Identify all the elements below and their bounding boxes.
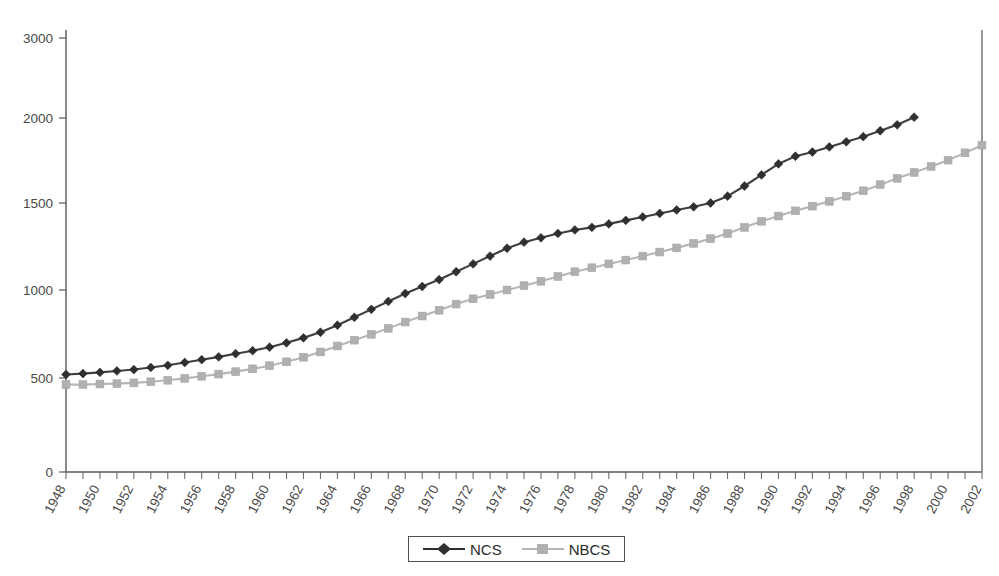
data-point-nbcs-1952 xyxy=(130,379,138,387)
x-tick-label-1960: 1960 xyxy=(245,482,272,516)
x-tick-label-1978: 1978 xyxy=(550,482,577,516)
series-line-nbcs xyxy=(66,145,982,384)
x-tick-label-1986: 1986 xyxy=(686,482,713,516)
data-point-ncs-1977 xyxy=(554,229,563,238)
data-point-nbcs-1961 xyxy=(283,358,291,366)
y-tick-label-2000: 2000 xyxy=(23,111,53,126)
line-chart-plot: 05001000150020003000 1948195019521954195… xyxy=(0,0,999,576)
data-point-nbcs-1949 xyxy=(79,381,87,389)
data-point-nbcs-1985 xyxy=(690,239,698,247)
data-point-ncs-1973 xyxy=(486,252,495,261)
data-point-nbcs-2002 xyxy=(978,141,986,149)
data-point-nbcs-1950 xyxy=(96,380,104,388)
data-point-nbcs-1988 xyxy=(741,223,749,231)
data-point-ncs-1979 xyxy=(587,223,596,232)
data-point-nbcs-1966 xyxy=(367,330,375,338)
data-point-ncs-1953 xyxy=(146,363,155,372)
data-point-ncs-1993 xyxy=(825,143,834,152)
x-tick-label-1998: 1998 xyxy=(889,482,916,516)
data-point-ncs-1995 xyxy=(859,132,868,141)
axes xyxy=(66,30,982,472)
data-point-ncs-1982 xyxy=(638,213,647,222)
x-tick-label-1956: 1956 xyxy=(177,482,204,516)
data-point-nbcs-1951 xyxy=(113,380,121,388)
data-point-nbcs-1958 xyxy=(232,368,240,376)
y-axis-ticks xyxy=(59,38,66,472)
data-point-ncs-1971 xyxy=(452,267,461,276)
data-point-ncs-1984 xyxy=(672,206,681,215)
data-point-nbcs-1984 xyxy=(673,244,681,252)
legend-item-ncs: NCS xyxy=(423,542,502,557)
data-point-nbcs-1955 xyxy=(181,374,189,382)
y-axis-tick-labels: 05001000150020003000 xyxy=(23,31,53,480)
x-tick-label-2002: 2002 xyxy=(957,482,984,516)
series-line-ncs xyxy=(66,117,914,374)
data-point-ncs-1961 xyxy=(282,338,291,347)
data-point-ncs-1983 xyxy=(655,209,664,218)
legend-marker-square-icon xyxy=(522,542,564,556)
data-point-nbcs-1963 xyxy=(317,348,325,356)
x-tick-label-1988: 1988 xyxy=(720,482,747,516)
data-point-nbcs-1980 xyxy=(605,260,613,268)
x-tick-label-1964: 1964 xyxy=(313,482,341,516)
data-point-ncs-1968 xyxy=(401,289,410,298)
x-tick-label-1952: 1952 xyxy=(109,482,136,516)
data-point-ncs-1955 xyxy=(180,358,189,367)
x-axis-tick-labels: 1948195019521954195619581960196219641966… xyxy=(41,482,984,516)
data-point-ncs-1964 xyxy=(333,321,342,330)
data-point-ncs-1967 xyxy=(384,297,393,306)
data-point-ncs-1951 xyxy=(112,367,121,376)
data-point-nbcs-1964 xyxy=(334,342,342,350)
data-point-ncs-1997 xyxy=(893,120,902,129)
data-point-ncs-1956 xyxy=(197,355,206,364)
x-tick-label-1990: 1990 xyxy=(754,482,781,516)
data-point-nbcs-1979 xyxy=(588,264,596,272)
data-point-ncs-1952 xyxy=(129,365,138,374)
y-tick-label-1000: 1000 xyxy=(23,283,53,298)
x-tick-label-1948: 1948 xyxy=(41,482,68,516)
data-point-nbcs-2001 xyxy=(961,149,969,157)
x-tick-label-1994: 1994 xyxy=(822,482,850,516)
x-tick-label-1950: 1950 xyxy=(75,482,102,516)
data-point-ncs-1963 xyxy=(316,328,325,337)
data-point-nbcs-1968 xyxy=(401,318,409,326)
x-tick-label-1968: 1968 xyxy=(381,482,408,516)
data-point-nbcs-1993 xyxy=(825,197,833,205)
x-tick-label-1962: 1962 xyxy=(279,482,306,516)
data-point-ncs-1992 xyxy=(808,148,817,157)
data-point-nbcs-1953 xyxy=(147,378,155,386)
data-point-ncs-1975 xyxy=(520,238,529,247)
x-tick-label-1982: 1982 xyxy=(618,482,645,516)
y-tick-label-0: 0 xyxy=(45,465,53,480)
data-point-nbcs-1981 xyxy=(622,256,630,264)
y-tick-label-1500: 1500 xyxy=(23,196,53,211)
data-point-nbcs-1957 xyxy=(215,370,223,378)
data-point-ncs-1994 xyxy=(842,137,851,146)
data-point-ncs-1960 xyxy=(265,343,274,352)
data-point-nbcs-1996 xyxy=(876,181,884,189)
x-tick-label-1996: 1996 xyxy=(856,482,883,516)
data-series xyxy=(62,113,986,389)
data-point-ncs-1959 xyxy=(248,346,257,355)
data-point-nbcs-1970 xyxy=(435,306,443,314)
x-tick-label-1954: 1954 xyxy=(143,482,171,516)
data-point-ncs-1991 xyxy=(791,152,800,161)
data-point-nbcs-1999 xyxy=(927,163,935,171)
data-point-ncs-1986 xyxy=(706,199,715,208)
x-tick-label-2000: 2000 xyxy=(923,482,950,516)
data-point-nbcs-1991 xyxy=(792,207,800,215)
legend-item-nbcs: NBCS xyxy=(522,542,611,557)
data-point-ncs-1985 xyxy=(689,202,698,211)
data-point-nbcs-1956 xyxy=(198,372,206,380)
data-point-ncs-1970 xyxy=(435,275,444,284)
data-point-ncs-1987 xyxy=(723,192,732,201)
data-point-nbcs-1975 xyxy=(520,282,528,290)
y-tick-label-3000: 3000 xyxy=(23,31,53,46)
data-point-ncs-1965 xyxy=(350,313,359,322)
data-point-ncs-1978 xyxy=(570,226,579,235)
data-point-nbcs-1978 xyxy=(571,268,579,276)
x-tick-label-1992: 1992 xyxy=(788,482,815,516)
data-point-ncs-1954 xyxy=(163,361,172,370)
data-point-ncs-1962 xyxy=(299,333,308,342)
data-point-nbcs-1986 xyxy=(707,235,715,243)
